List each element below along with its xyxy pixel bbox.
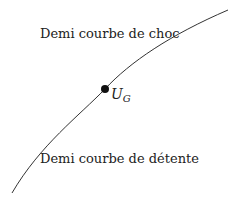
- label-shock: Demi courbe de choc: [40, 26, 179, 41]
- curve-lower-rarefaction: [12, 89, 105, 193]
- diagram-canvas: Demi courbe de choc Demi courbe de déten…: [0, 0, 234, 203]
- label-ug-sub: G: [123, 93, 131, 104]
- label-ug: UG: [111, 86, 131, 104]
- label-rarefaction: Demi courbe de détente: [40, 151, 199, 166]
- curve-upper-shock: [105, 10, 228, 89]
- point-ug: [101, 85, 109, 93]
